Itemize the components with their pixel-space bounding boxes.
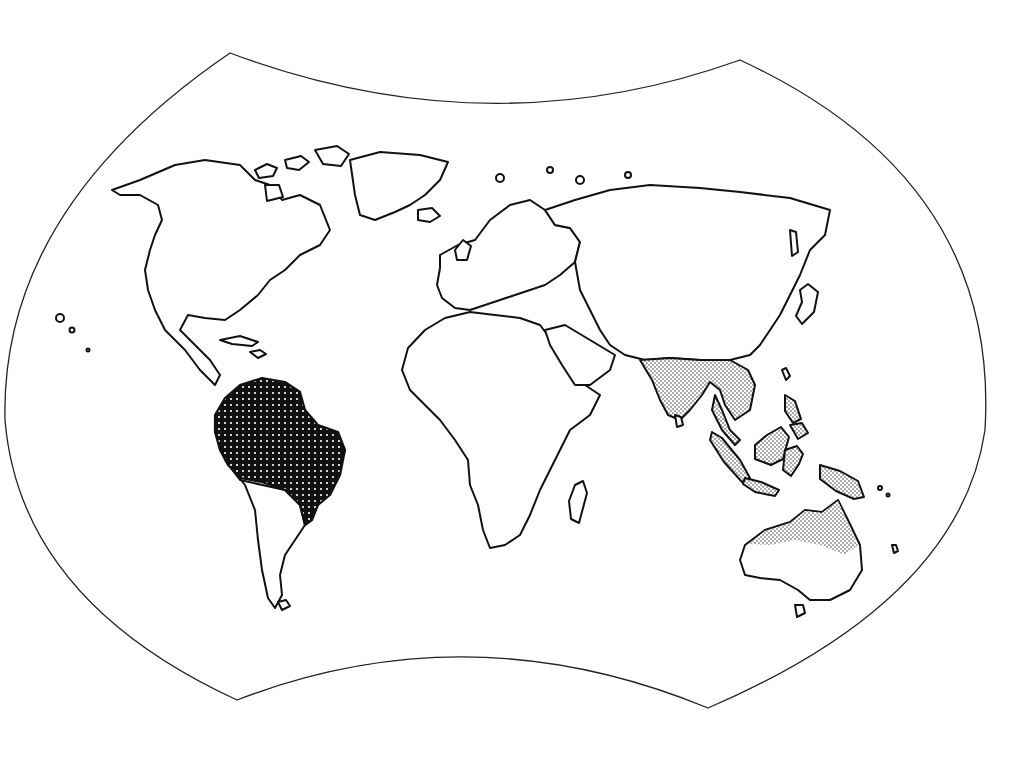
pacific-island xyxy=(887,494,890,497)
south-asia-light-region xyxy=(640,358,755,420)
sri-lanka xyxy=(675,415,683,427)
pacific-island xyxy=(56,314,64,322)
sulawesi xyxy=(783,446,803,476)
new-guinea xyxy=(820,465,864,499)
caribbean-island xyxy=(250,350,266,358)
arctic-island xyxy=(625,172,631,178)
new-zealand xyxy=(892,545,898,553)
arctic-island xyxy=(576,176,584,184)
north-america xyxy=(112,160,330,385)
arctic-islands xyxy=(255,164,277,178)
iceland xyxy=(418,208,440,222)
tierra-del-fuego xyxy=(278,600,290,610)
world-map xyxy=(0,0,1036,760)
pacific-island xyxy=(87,349,90,352)
philippines xyxy=(785,395,801,423)
sakhalin xyxy=(790,230,798,256)
cuba xyxy=(220,336,258,346)
arctic-island xyxy=(496,174,504,182)
pacific-island xyxy=(70,328,75,333)
philippines-south xyxy=(790,423,808,439)
taiwan xyxy=(782,368,790,380)
arctic-islands xyxy=(285,156,309,170)
pacific-island xyxy=(878,486,882,490)
japan xyxy=(796,284,818,324)
british-isles xyxy=(455,240,471,260)
arctic-island xyxy=(547,167,553,173)
arctic-islands xyxy=(315,146,349,166)
asia xyxy=(545,185,830,360)
java xyxy=(743,478,779,496)
arctic-islands xyxy=(265,185,283,201)
madagascar xyxy=(569,481,587,523)
tasmania xyxy=(795,605,805,617)
